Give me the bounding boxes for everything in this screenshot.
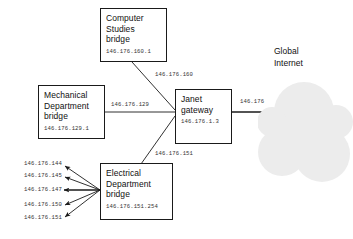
link-label-computer-studies: 146.176.160 xyxy=(155,71,193,78)
node-title: Mechanical Department bridge xyxy=(39,86,104,122)
host-link-4 xyxy=(65,190,100,205)
link-label-mechanical: 146.176.129 xyxy=(111,101,149,108)
node-ip-address: 146.176.151.254 xyxy=(101,200,172,210)
node-janet-gateway[interactable]: Janet gateway 146.176.1.3 xyxy=(175,89,232,144)
node-ip-address: 146.176.1.3 xyxy=(176,115,231,125)
host-label-2: 146.176.145 xyxy=(4,172,62,179)
host-label-3: 146.176.147 xyxy=(4,186,62,193)
host-link-5 xyxy=(65,190,100,217)
node-computer-studies-bridge[interactable]: Computer Studies bridge 146.176.160.1 xyxy=(100,8,167,62)
node-mechanical-department-bridge[interactable]: Mechanical Department bridge 146.176.129… xyxy=(38,85,105,139)
node-ip-address: 146.176.160.1 xyxy=(101,45,166,55)
global-internet-cloud-icon xyxy=(258,78,353,188)
host-label-1: 146.176.144 xyxy=(4,160,62,167)
host-label-4: 146.176.150 xyxy=(4,201,62,208)
global-internet-caption: Global Internet xyxy=(274,46,303,69)
network-diagram: Computer Studies bridge 146.176.160.1 Me… xyxy=(0,0,353,239)
node-title: Electrical Department bridge xyxy=(101,164,172,200)
host-link-1 xyxy=(65,166,100,190)
node-ip-address: 146.176.129.1 xyxy=(39,122,104,132)
host-link-2 xyxy=(65,177,100,190)
node-electrical-department-bridge[interactable]: Electrical Department bridge 146.176.151… xyxy=(100,163,173,220)
link-label-electrical: 146.176.151 xyxy=(155,150,193,157)
node-title: Janet gateway xyxy=(176,90,231,115)
host-label-5: 146.176.151 xyxy=(4,214,62,221)
node-title: Computer Studies bridge xyxy=(101,9,166,45)
link-label-gateway-to-internet: 146.176 xyxy=(240,98,264,105)
